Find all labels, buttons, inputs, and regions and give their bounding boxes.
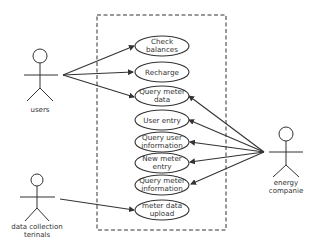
use-case-diagram: users data collection terinals energy co…	[0, 0, 312, 247]
svg-text:information: information	[141, 141, 182, 150]
actor-energy-companie	[269, 127, 303, 177]
svg-text:User entry: User entry	[143, 116, 181, 125]
actor-users	[24, 49, 58, 101]
use-case-check-balances: Check balances	[135, 36, 189, 56]
use-case-new-meter-entry: New meter entry	[135, 153, 189, 173]
use-case-meter-data-upload: meter data upload	[135, 200, 189, 220]
svg-text:information: information	[141, 184, 182, 193]
svg-text:data: data	[154, 95, 170, 104]
use-case-user-entry: User entry	[135, 110, 189, 130]
use-case-query-user-information: Query user information	[135, 132, 189, 152]
svg-text:upload: upload	[150, 209, 174, 218]
svg-text:balances: balances	[146, 45, 178, 54]
actor-energy-label-line1: energy	[274, 179, 298, 187]
actor-users-label: users	[31, 106, 50, 114]
use-case-query-meter-information: Query meter information	[135, 175, 189, 195]
actor-data-collection-terminals	[20, 174, 55, 221]
actor-terminals-label-line1: data collection	[11, 223, 63, 231]
actor-energy-label-line2: companie	[269, 187, 303, 195]
svg-text:entry: entry	[152, 162, 172, 171]
use-case-recharge: Recharge	[135, 62, 189, 82]
use-case-query-meter-data: Query meter data	[135, 86, 189, 106]
svg-text:Recharge: Recharge	[145, 68, 179, 77]
actor-terminals-label-line2: terinals	[24, 231, 51, 239]
